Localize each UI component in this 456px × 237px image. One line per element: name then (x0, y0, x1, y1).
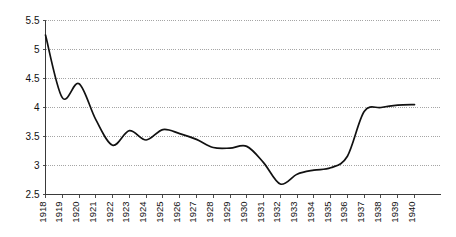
y-axis-tick-label: 5.5 (26, 15, 40, 26)
x-axis-tick-label: 1923 (120, 202, 131, 223)
x-axis-tick-label: 1937 (355, 202, 366, 223)
y-axis-tick-label: 3 (34, 160, 40, 171)
x-axis-tick-label: 1930 (238, 201, 249, 222)
x-axis-tick-label: 1919 (53, 202, 64, 223)
x-axis-tick-label: 1921 (87, 202, 98, 223)
y-axis-tick-label: 2.5 (26, 189, 40, 200)
y-axis-tick-label: 5 (34, 44, 40, 55)
x-axis-tick-label: 1922 (104, 202, 115, 223)
x-axis-tick-label: 1936 (338, 202, 349, 223)
y-axis-tick-label: 3.5 (26, 131, 40, 142)
x-axis-tick-label: 1924 (137, 202, 148, 223)
x-axis-tick-label: 1927 (187, 202, 198, 223)
chart-background (0, 0, 456, 237)
line-chart: 2.533.544.555.5 191819191920192119221923… (0, 0, 456, 237)
y-axis-tick-label: 4 (34, 102, 40, 113)
x-axis-tick-label: 1940 (406, 202, 417, 223)
x-axis-tick-label: 1918 (37, 202, 48, 223)
x-axis-tick-label: 1935 (322, 202, 333, 223)
x-axis-tick-label: 1928 (204, 202, 215, 223)
x-axis-tick-label: 1934 (305, 202, 316, 223)
x-axis-tick-label: 1926 (171, 202, 182, 223)
y-axis-tick-label: 4.5 (26, 73, 40, 84)
x-axis-tick-label: 1932 (271, 202, 282, 223)
x-axis-tick-label: 1920 (70, 202, 81, 223)
x-axis-tick-label: 1938 (372, 202, 383, 223)
x-axis-tick-label: 1929 (221, 202, 232, 223)
x-axis-tick-labels: 1918191919201921192219231924192519261927… (37, 201, 417, 222)
x-axis-tick-label: 1931 (255, 202, 266, 223)
x-axis-tick-label: 1939 (389, 202, 400, 223)
x-axis-tick-label: 1925 (154, 202, 165, 223)
chart-canvas: 2.533.544.555.5 191819191920192119221923… (0, 0, 456, 237)
x-axis-tick-label: 1933 (288, 202, 299, 223)
